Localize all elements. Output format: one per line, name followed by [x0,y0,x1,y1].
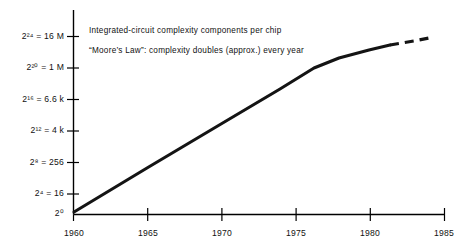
x-tick-label-1975: 1975 [276,228,316,238]
y-tick-label-2e24: 2²⁴ = 16 M [2,31,64,41]
y-tick-label-2e20: 2²⁰ = 1 M [2,62,64,72]
chart-caption-block: Integrated-circuit complexity components… [89,21,389,61]
y-tick-label-2e16: 2¹⁶ = 6.6 k [2,94,64,104]
y-tick-label-2e0: 2⁰ [2,208,64,218]
x-tick-label-1970: 1970 [202,228,242,238]
x-tick-label-1965: 1965 [128,228,168,238]
chart-subtitle: “Moore’s Law”: complexity doubles (appro… [89,41,389,61]
y-tick-label-2e8: 2⁸ = 256 [2,157,64,167]
x-tick-label-1980: 1980 [350,228,390,238]
chart-title: Integrated-circuit complexity components… [89,21,389,41]
moores-law-figure: Integrated-circuit complexity components… [0,0,461,247]
y-tick-label-2e4: 2⁴ = 16 [2,188,64,198]
x-tick-label-1960: 1960 [54,228,94,238]
x-tick-label-1985: 1985 [424,228,461,238]
y-tick-label-2e12: 2¹² = 4 k [2,125,64,135]
